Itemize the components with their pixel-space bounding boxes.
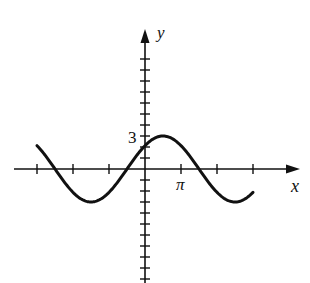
x-axis-arrow-icon (286, 165, 300, 174)
pi-tick-label: π (176, 175, 185, 194)
y-axis-arrow-icon (141, 29, 150, 43)
three-tick-label: 3 (128, 128, 137, 147)
y-axis-label: y (155, 23, 165, 42)
chart: y x π 3 (0, 0, 310, 283)
x-axis-label: x (290, 176, 299, 196)
